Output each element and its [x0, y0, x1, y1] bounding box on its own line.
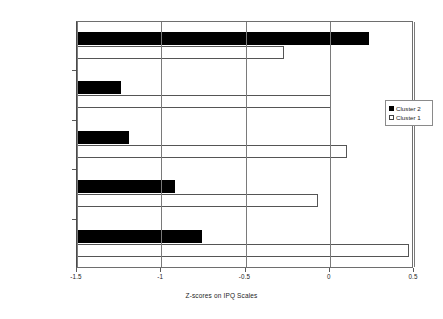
bar-cluster-1: [77, 145, 347, 158]
x-tick: [160, 268, 161, 272]
hollow-square-icon: [389, 115, 394, 120]
bars-layer: [77, 22, 412, 267]
x-tick-label: -0.5: [225, 273, 265, 280]
plot-area: [76, 21, 413, 268]
bar-cluster-1: [77, 95, 331, 108]
bar-cluster-1: [77, 244, 409, 257]
gridline: [414, 22, 415, 267]
x-tick-label: -1: [140, 273, 180, 280]
x-tick: [76, 268, 77, 272]
x-tick-label: 0.5: [393, 273, 433, 280]
category-tick: [72, 169, 76, 170]
gridline: [330, 22, 331, 267]
bar-cluster-2: [77, 180, 175, 193]
gridline: [246, 22, 247, 267]
bar-cluster-2: [77, 230, 202, 243]
gridline: [161, 22, 162, 267]
legend-label: Cluster 1: [396, 113, 421, 122]
x-tick: [413, 268, 414, 272]
chart-figure: Cure/ControlConsequencesDurationInternal…: [0, 0, 443, 319]
category-tick: [72, 70, 76, 71]
x-tick-label: 0: [309, 273, 349, 280]
x-axis-title: Z-scores on IPQ Scales: [0, 292, 443, 299]
category-tick: [72, 219, 76, 220]
x-tick: [329, 268, 330, 272]
legend-label: Cluster 2: [396, 104, 421, 113]
legend[interactable]: Cluster 2 Cluster 1: [385, 100, 433, 126]
bar-cluster-2: [77, 131, 129, 144]
filled-square-icon: [389, 106, 394, 111]
gridline: [77, 22, 78, 267]
x-tick: [245, 268, 246, 272]
legend-item-cluster-1[interactable]: Cluster 1: [389, 113, 430, 122]
bar-cluster-2: [77, 32, 369, 45]
bar-cluster-1: [77, 194, 318, 207]
bar-cluster-2: [77, 81, 121, 94]
bar-cluster-1: [77, 46, 284, 59]
legend-item-cluster-2[interactable]: Cluster 2: [389, 104, 430, 113]
category-tick: [72, 120, 76, 121]
x-tick-label: -1.5: [56, 273, 96, 280]
